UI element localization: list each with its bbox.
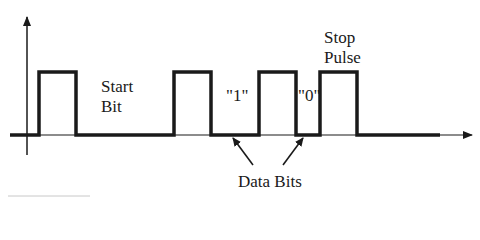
- stop-pulse-label-line2: Pulse: [324, 48, 361, 68]
- start-bit-label: Start Bit: [101, 77, 133, 117]
- start-bit-label-line2: Bit: [101, 97, 133, 117]
- data-bits-label: Data Bits: [238, 172, 302, 192]
- start-bit-label-line1: Start: [101, 77, 133, 97]
- stop-pulse-label-line1: Stop: [324, 28, 361, 48]
- data-bit-1-arrow: [233, 138, 253, 165]
- bit-zero-label: "0": [298, 86, 320, 106]
- bit-one-label: "1": [226, 86, 248, 106]
- stop-pulse-label: Stop Pulse: [324, 28, 361, 68]
- data-bit-0-arrow: [283, 138, 303, 165]
- signal-waveform: [10, 72, 440, 135]
